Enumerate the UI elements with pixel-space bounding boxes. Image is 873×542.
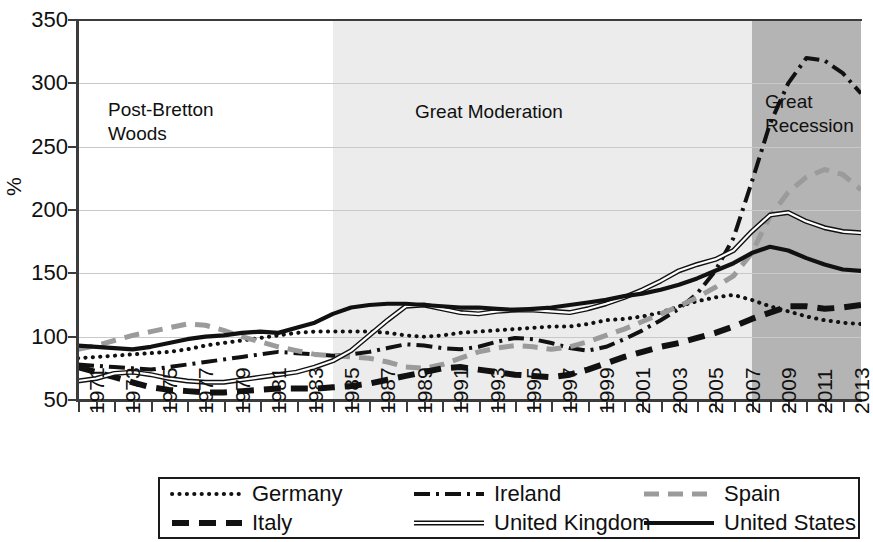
legend-item-united-states: United States [632,512,856,534]
x-tick-mark [515,401,517,412]
x-tick-label: 1999 [596,367,617,414]
x-tick-label: 1973 [122,367,143,414]
x-tick-mark [333,401,335,412]
legend-row-1: Germany Ireland Spain [160,479,858,508]
x-tick-mark [369,401,371,412]
x-tick-mark [734,401,736,412]
x-tick-mark [624,401,626,412]
x-tick-mark [260,401,262,412]
x-tick-mark [78,401,80,412]
legend-label-united-kingdom: United Kingdom [494,512,651,534]
legend-item-spain: Spain [632,483,780,505]
x-tick-label: 1991 [450,367,471,414]
y-tick-mark [68,399,79,401]
x-tick-mark [151,401,153,412]
x-tick-label: 2005 [705,367,726,414]
x-tick-label: 1989 [414,367,435,414]
x-tick-mark [442,401,444,412]
x-tick-label: 2011 [814,369,835,414]
x-tick-label: 1987 [377,367,398,414]
y-tick-mark [68,336,79,338]
legend-label-united-states: United States [724,512,856,534]
y-tick-mark [68,82,79,84]
legend-item-germany: Germany [160,483,402,505]
chart-legend: Germany Ireland Spain Italy United Kingd… [158,477,860,539]
x-tick-label: 1975 [159,367,180,414]
legend-swatch-spain [642,485,716,503]
legend-label-germany: Germany [252,483,342,505]
legend-label-ireland: Ireland [494,483,561,505]
legend-label-italy: Italy [252,512,292,534]
legend-swatch-united-kingdom [412,514,486,532]
legend-item-italy: Italy [160,512,402,534]
x-tick-mark [588,401,590,412]
x-tick-label: 2003 [669,367,690,414]
x-tick-mark [297,401,299,412]
x-tick-label: 2007 [742,367,763,414]
legend-swatch-italy [170,514,244,532]
x-tick-mark [697,401,699,412]
y-tick-mark [68,146,79,148]
x-tick-label: 1997 [559,367,580,414]
legend-swatch-ireland [412,485,486,503]
legend-item-ireland: Ireland [402,483,632,505]
y-tick-mark [68,272,79,274]
legend-swatch-germany [170,485,244,503]
x-tick-label: 1983 [305,367,326,414]
x-tick-mark [406,401,408,412]
x-tick-label: 1977 [195,367,216,414]
x-tick-mark [806,401,808,412]
x-tick-mark [187,401,189,412]
x-tick-label: 2013 [851,367,872,414]
x-tick-mark [224,401,226,412]
legend-swatch-united-states [642,514,716,532]
x-tick-label: 1971 [86,367,107,414]
legend-item-united-kingdom: United Kingdom [402,512,632,534]
x-tick-label: 1985 [341,367,362,414]
x-tick-label: 1981 [268,367,289,414]
x-tick-mark [479,401,481,412]
x-tick-mark [661,401,663,412]
y-tick-mark [68,19,79,21]
x-tick-label: 2001 [632,367,653,414]
x-tick-mark [114,401,116,412]
x-tick-label: 1995 [523,367,544,414]
legend-label-spain: Spain [724,483,780,505]
x-tick-mark [770,401,772,412]
x-tick-label: 1993 [487,367,508,414]
x-tick-label: 1979 [232,367,253,414]
x-tick-mark [551,401,553,412]
x-tick-mark [843,401,845,412]
legend-row-2: Italy United Kingdom United States [160,508,858,537]
y-tick-mark [68,209,79,211]
x-tick-label: 2009 [778,367,799,414]
